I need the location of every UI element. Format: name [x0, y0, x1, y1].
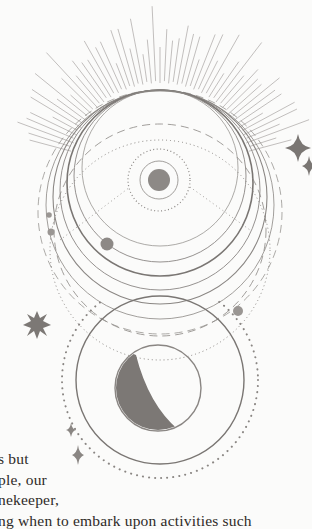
sun-rays — [17, 6, 309, 151]
sun-ray — [243, 102, 295, 130]
sun-ray — [29, 133, 71, 146]
sun-ray — [32, 89, 82, 122]
sun-ray — [164, 29, 166, 81]
sparkle-icon — [285, 134, 311, 162]
sun-ray — [216, 43, 262, 103]
sun-ray — [116, 63, 126, 89]
sun-ray — [53, 117, 78, 130]
sun-ray — [17, 122, 73, 143]
sun-ray — [177, 26, 188, 85]
sun-ray — [84, 41, 114, 93]
sparkle-icon — [72, 445, 84, 465]
sun-ray — [130, 19, 142, 85]
moon-outer-circle — [76, 296, 244, 464]
sparkle-icon — [66, 423, 76, 437]
sun-ray — [152, 6, 156, 81]
central-planet — [148, 169, 170, 191]
sun-ray — [227, 79, 258, 109]
sun-ray — [221, 76, 244, 104]
sun-ray — [62, 78, 93, 109]
celestial-illustration — [0, 0, 312, 529]
sun-ray — [76, 76, 99, 104]
sun-ray — [190, 59, 199, 86]
sun-ray — [173, 38, 179, 82]
orbit-arc — [82, 90, 238, 246]
body-text-line: nekeeper, — [0, 491, 59, 509]
sun-ray — [182, 34, 194, 84]
body-text-line: s but — [0, 450, 29, 468]
moon-dotted-ring — [62, 282, 258, 478]
sun-ray — [82, 63, 107, 98]
moon-phase-shadow — [100, 340, 185, 440]
sun-ray — [46, 53, 97, 108]
planet — [233, 306, 243, 316]
sun-ray — [214, 62, 239, 98]
sun-ray — [147, 40, 151, 84]
sun-ray — [111, 30, 130, 86]
planet — [48, 229, 55, 236]
sun-ray — [229, 84, 262, 113]
orbit-arc — [53, 90, 267, 304]
planet — [101, 238, 114, 251]
sun-ray — [238, 94, 281, 123]
body-text-line: ng when to embark upon activities such — [0, 512, 252, 529]
sun-ray — [57, 99, 86, 120]
dotted-line — [190, 187, 250, 230]
planet — [46, 212, 52, 218]
sun-ray — [88, 60, 111, 97]
sparkle-icon — [302, 156, 312, 176]
sun-ray — [249, 140, 292, 151]
sun-ray — [223, 69, 258, 107]
eight-point-star-icon — [23, 311, 51, 339]
sun-ray — [169, 41, 173, 84]
orbit-arc — [38, 90, 282, 334]
sun-ray — [96, 47, 119, 93]
sun-ray — [30, 113, 77, 136]
sun-ray — [100, 42, 121, 89]
body-text-line: ple, our — [0, 471, 47, 489]
sun-ray — [143, 54, 147, 82]
sun-ray — [194, 34, 216, 89]
